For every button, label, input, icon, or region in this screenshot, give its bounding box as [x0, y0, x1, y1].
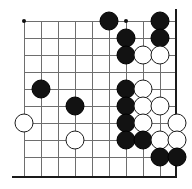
grid-line-vertical: [92, 21, 93, 176]
goban-grid: [0, 0, 192, 189]
hoshi-star-point: [124, 19, 128, 23]
black-stone: [168, 148, 187, 167]
go-board-diagram: [0, 0, 192, 189]
black-stone: [66, 97, 85, 116]
board-edge-bottom: [12, 176, 177, 178]
grid-line-vertical: [41, 21, 42, 176]
black-stone: [100, 12, 119, 31]
black-stone: [32, 80, 51, 99]
grid-line-horizontal: [24, 72, 175, 73]
white-stone: [66, 131, 85, 150]
white-stone: [151, 97, 170, 116]
white-stone: [15, 114, 34, 133]
white-stone: [151, 46, 170, 65]
hoshi-star-point: [22, 19, 26, 23]
grid-line-vertical: [24, 21, 25, 176]
grid-line-vertical: [58, 21, 59, 176]
grid-line-vertical: [109, 21, 110, 176]
